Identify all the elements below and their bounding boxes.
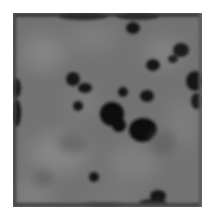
texture-image — [13, 13, 202, 207]
texture-svg — [13, 13, 202, 207]
